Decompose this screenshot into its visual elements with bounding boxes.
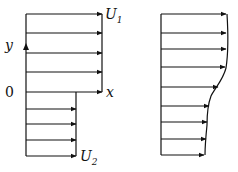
right-profile-diagram bbox=[161, 14, 228, 155]
upper-velocity-arrows bbox=[26, 14, 102, 92]
u2-label: U2 bbox=[80, 148, 98, 167]
left-profile-diagram: U1 y 0 x U2 bbox=[4, 6, 123, 167]
x-axis-label: x bbox=[106, 84, 114, 100]
y-axis-arrow-icon bbox=[23, 43, 29, 50]
y-axis-label: y bbox=[4, 37, 14, 53]
origin-label: 0 bbox=[5, 84, 14, 100]
u1-label: U1 bbox=[105, 6, 123, 25]
lower-velocity-arrows bbox=[26, 109, 76, 156]
smooth-velocity-arrows bbox=[161, 14, 226, 155]
velocity-profile-figure: U1 y 0 x U2 bbox=[0, 0, 238, 172]
smooth-velocity-profile-curve bbox=[205, 14, 228, 155]
